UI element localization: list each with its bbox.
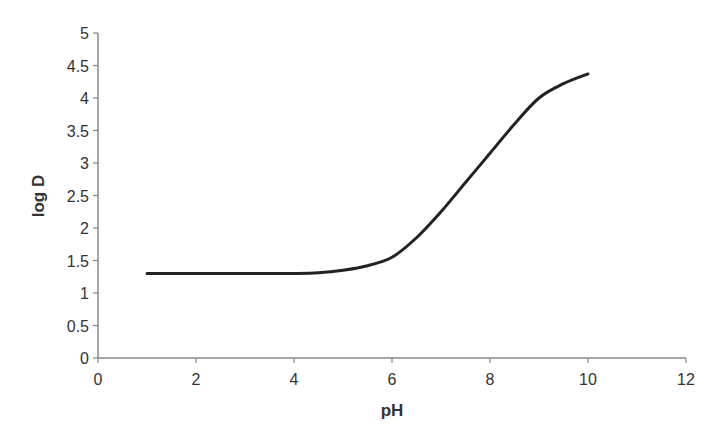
y-tick-label: 3.5 — [67, 123, 89, 140]
x-tick-label: 2 — [192, 371, 201, 388]
y-tick-label: 2.5 — [67, 188, 89, 205]
axes: 02468101200.511.522.533.544.55 — [67, 25, 695, 388]
y-tick-label: 4 — [80, 90, 89, 107]
y-tick-label: 2 — [80, 220, 89, 237]
y-tick-label: 0 — [80, 350, 89, 367]
chart: 02468101200.511.522.533.544.55 pH log D — [0, 0, 724, 439]
x-tick-label: 10 — [579, 371, 597, 388]
x-tick-label: 4 — [290, 371, 299, 388]
x-axis-label: pH — [381, 401, 404, 420]
y-tick-label: 1.5 — [67, 253, 89, 270]
x-tick-label: 0 — [94, 371, 103, 388]
x-tick-label: 12 — [677, 371, 695, 388]
x-tick-label: 8 — [486, 371, 495, 388]
y-tick-label: 5 — [80, 25, 89, 42]
data-line — [147, 74, 588, 274]
x-tick-label: 6 — [388, 371, 397, 388]
y-axis-label: log D — [29, 175, 48, 218]
plot-area — [147, 74, 588, 274]
y-tick-label: 0.5 — [67, 318, 89, 335]
y-tick-label: 3 — [80, 155, 89, 172]
y-tick-label: 1 — [80, 285, 89, 302]
y-tick-label: 4.5 — [67, 58, 89, 75]
